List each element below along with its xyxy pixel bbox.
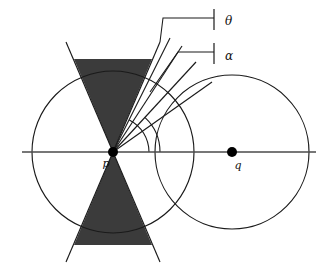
cone-wedge-upper — [74, 59, 152, 152]
cone-wedge-lower — [74, 152, 152, 245]
node-dot-q — [227, 147, 237, 157]
theta-leader-line — [160, 18, 214, 42]
angle-arc-theta — [129, 120, 149, 152]
diagram-canvas: p q θ α — [0, 0, 328, 264]
label-point-q: q — [234, 159, 241, 172]
angle-arc-alpha — [145, 118, 160, 152]
label-angle-alpha: α — [225, 49, 233, 63]
label-angle-theta: θ — [225, 14, 233, 28]
geometry-figure: p q θ α — [0, 0, 328, 264]
label-point-p: p — [102, 157, 109, 170]
node-dot-p — [108, 147, 118, 157]
